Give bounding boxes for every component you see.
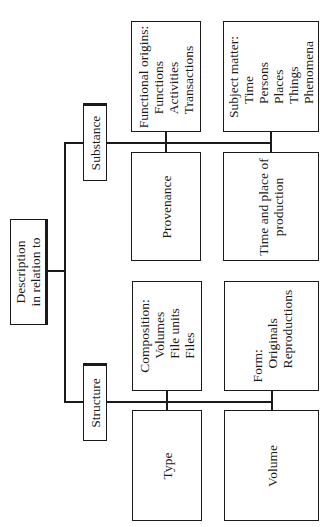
box-subject-matter: Subject matter: Time Persons Places Thin…: [223, 21, 319, 132]
spine-line: [64, 142, 66, 402]
type-line: Type: [160, 452, 175, 479]
substance-label: Substance: [88, 116, 103, 171]
subject-matter-text: Subject matter: Time Persons Places Thin…: [226, 35, 316, 117]
substance-col1-stem: [165, 131, 167, 153]
structure-col2-stem: [271, 390, 273, 411]
composition-heading: Composition:: [137, 299, 152, 373]
root-connector: [47, 270, 65, 272]
provenance-line: Provenance: [159, 175, 174, 238]
structure-branch: [64, 401, 84, 403]
functional-origins-heading: Functional origins:: [136, 25, 151, 127]
box-form: Form: Originals Reproductions: [224, 281, 319, 391]
functional-origins-item: Activities: [166, 25, 181, 127]
box-volume: Volume: [224, 410, 319, 521]
subject-matter-item: Time: [241, 35, 256, 117]
subject-matter-item: Places: [271, 35, 286, 117]
composition-item: Files: [182, 299, 197, 373]
subject-matter-item: Persons: [256, 35, 271, 117]
root-line-2: in relation to: [28, 238, 43, 307]
functional-origins-item: Transactions: [181, 25, 196, 127]
structure-bus: [106, 401, 271, 403]
subject-matter-item: Things: [286, 35, 301, 117]
composition-item: File units: [167, 299, 182, 373]
structure-col1-stem: [166, 390, 168, 411]
form-item: Reproductions: [279, 290, 294, 383]
time-place-line-2: production: [271, 158, 286, 255]
box-composition: Composition: Volumes File units Files: [132, 281, 202, 391]
substance-bus: [106, 142, 271, 144]
category-box-structure: Structure: [83, 363, 107, 441]
root-label: Description in relation to: [13, 238, 43, 307]
category-box-substance: Substance: [83, 103, 107, 181]
composition-item: Volumes: [152, 299, 167, 373]
substance-col2-stem: [270, 131, 272, 153]
box-provenance: Provenance: [131, 152, 201, 261]
form-item: Originals: [264, 290, 279, 383]
type-text: Type: [160, 452, 175, 479]
box-type: Type: [132, 410, 202, 521]
time-place-line-1: Time and place of: [256, 158, 271, 255]
root-box-description: Description in relation to: [10, 219, 48, 325]
subject-matter-item: Phenomena: [301, 35, 316, 117]
form-heading: Form:: [249, 290, 264, 383]
volume-line: Volume: [264, 445, 279, 487]
time-place-text: Time and place of production: [256, 158, 286, 255]
root-line-1: Description: [13, 238, 28, 307]
box-functional-origins: Functional origins: Functions Activities…: [131, 21, 201, 132]
form-text: Form: Originals Reproductions: [249, 290, 294, 383]
functional-origins-text: Functional origins: Functions Activities…: [136, 25, 196, 127]
composition-text: Composition: Volumes File units Files: [137, 299, 197, 373]
provenance-text: Provenance: [159, 175, 174, 238]
structure-label: Structure: [88, 378, 103, 428]
volume-text: Volume: [264, 445, 279, 487]
box-time-place-production: Time and place of production: [223, 152, 319, 261]
functional-origins-item: Functions: [151, 25, 166, 127]
substance-branch: [64, 142, 84, 144]
subject-matter-heading: Subject matter:: [226, 35, 241, 117]
